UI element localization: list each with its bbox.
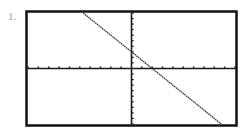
graph-screen bbox=[0, 0, 244, 129]
